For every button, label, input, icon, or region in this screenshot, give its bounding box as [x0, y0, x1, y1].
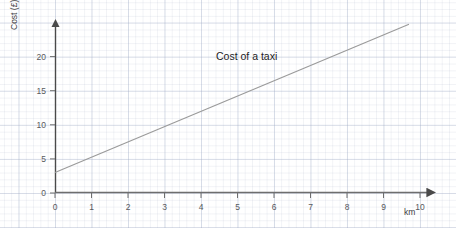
x-tick-label-8: 8 [337, 203, 357, 212]
y-tick-label-15: 15 [22, 87, 46, 96]
x-tick-label-5: 5 [228, 203, 248, 212]
taxi-cost-chart: 0 5 10 15 20 0 1 2 3 4 5 6 7 8 9 10 Cost… [0, 0, 456, 228]
y-tick-label-10: 10 [22, 121, 46, 130]
y-tick-label-0: 0 [22, 189, 46, 198]
x-axis-ticks [55, 193, 420, 198]
y-axis-title: Cost (£) [10, 0, 19, 30]
cost-line-series [55, 24, 409, 172]
x-tick-label-3: 3 [155, 203, 175, 212]
chart-plot-area [0, 0, 456, 228]
x-tick-label-9: 9 [374, 203, 394, 212]
y-axis-ticks [50, 57, 55, 193]
x-tick-label-2: 2 [118, 203, 138, 212]
x-axis-title: km [404, 208, 415, 217]
x-tick-label-0: 0 [45, 203, 65, 212]
x-tick-label-7: 7 [301, 203, 321, 212]
series-annotation-label: Cost of a taxi [216, 51, 277, 62]
x-tick-label-6: 6 [264, 203, 284, 212]
x-tick-label-1: 1 [82, 203, 102, 212]
y-tick-label-20: 20 [22, 53, 46, 62]
y-tick-label-5: 5 [22, 155, 46, 164]
x-tick-label-4: 4 [191, 203, 211, 212]
